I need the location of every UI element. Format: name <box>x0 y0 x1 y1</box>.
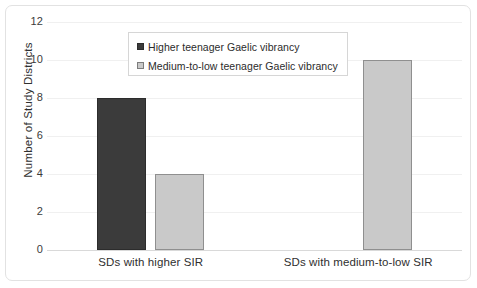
x-tick-label: SDs with higher SIR <box>47 256 255 268</box>
legend-swatch-icon <box>137 62 144 69</box>
legend-item-label: Higher teenager Gaelic vibrancy <box>148 41 300 53</box>
y-tick-label: 6 <box>7 130 43 141</box>
legend-swatch-icon <box>137 43 144 50</box>
x-axis-ticks: SDs with higher SIRSDs with medium-to-lo… <box>47 256 462 276</box>
chart-legend: Higher teenager Gaelic vibrancyMedium-to… <box>128 32 348 76</box>
legend-item[interactable]: Higher teenager Gaelic vibrancy <box>137 38 339 55</box>
y-axis-ticks: 121086420 <box>0 22 43 250</box>
gridline-12 <box>47 22 462 23</box>
bar-medium-to-low-group1[interactable] <box>155 174 204 250</box>
gridline-0 <box>47 250 462 251</box>
bar-chart-figure: Number of Study Districts 121086420 SDs … <box>0 0 477 288</box>
y-tick-label: 4 <box>7 168 43 179</box>
y-tick-label: 2 <box>7 206 43 217</box>
legend-item[interactable]: Medium-to-low teenager Gaelic vibrancy <box>137 57 339 74</box>
y-tick-label: 12 <box>7 16 43 27</box>
bar-medium-to-low-group2[interactable] <box>363 60 412 250</box>
bar-higher-group1[interactable] <box>97 98 146 250</box>
x-tick-label: SDs with medium-to-low SIR <box>255 256 463 268</box>
y-tick-label: 10 <box>7 54 43 65</box>
legend-item-label: Medium-to-low teenager Gaelic vibrancy <box>148 60 338 72</box>
y-tick-label: 0 <box>7 244 43 255</box>
y-tick-label: 8 <box>7 92 43 103</box>
